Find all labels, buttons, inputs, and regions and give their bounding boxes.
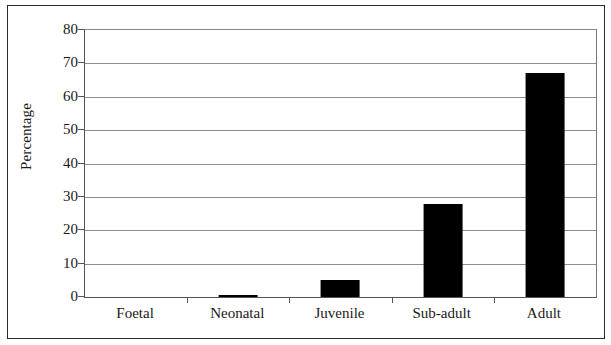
x-tick-label: Juvenile bbox=[315, 305, 365, 322]
y-tick-label: 30 bbox=[44, 188, 78, 203]
bar-slot bbox=[289, 30, 391, 297]
bar-slot bbox=[494, 30, 596, 297]
y-tick-label: 0 bbox=[44, 289, 78, 304]
x-axis-tick-labels: Foetal Neonatal Juvenile Sub-adult Adult bbox=[84, 305, 595, 335]
y-tick-label: 80 bbox=[44, 22, 78, 37]
bar-chart: Percentage 80 70 60 50 40 30 20 10 0 Foe… bbox=[0, 0, 611, 345]
x-tick-mark bbox=[187, 297, 188, 303]
x-tick-label: Neonatal bbox=[210, 305, 264, 322]
bar bbox=[219, 295, 258, 297]
y-tick-label: 10 bbox=[44, 255, 78, 270]
bar-slot bbox=[187, 30, 289, 297]
y-axis-tick-labels: 80 70 60 50 40 30 20 10 0 bbox=[44, 0, 78, 345]
x-tick-label: Adult bbox=[527, 305, 561, 322]
bar bbox=[423, 204, 462, 297]
y-tick-label: 20 bbox=[44, 222, 78, 237]
y-tick-label: 50 bbox=[44, 122, 78, 137]
y-tick-label: 40 bbox=[44, 155, 78, 170]
plot-area bbox=[84, 29, 597, 298]
bar bbox=[321, 280, 360, 297]
y-axis-title: Percentage bbox=[18, 67, 35, 207]
x-tick-label: Sub-adult bbox=[413, 305, 471, 322]
x-tick-mark bbox=[289, 297, 290, 303]
bar-slot bbox=[85, 30, 187, 297]
x-tick-mark bbox=[392, 297, 393, 303]
bar-slot bbox=[392, 30, 494, 297]
bar bbox=[525, 73, 564, 297]
y-tick-label: 70 bbox=[44, 55, 78, 70]
x-tick-mark bbox=[494, 297, 495, 303]
x-tick-label: Foetal bbox=[116, 305, 154, 322]
y-tick-label: 60 bbox=[44, 88, 78, 103]
